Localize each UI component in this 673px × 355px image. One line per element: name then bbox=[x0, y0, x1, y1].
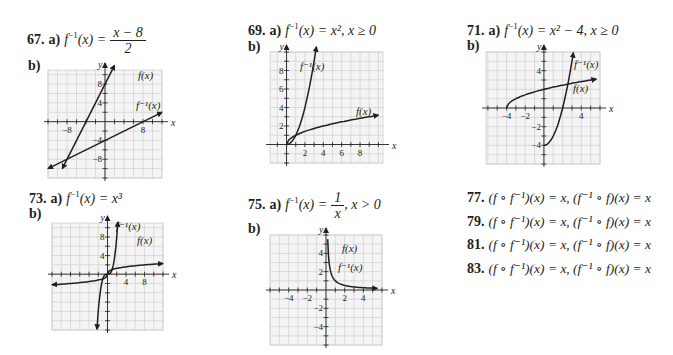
f-inverse-label: f⁻¹(x) bbox=[136, 99, 161, 112]
y-tick-label: 8 bbox=[98, 79, 103, 89]
y-axis-label: y bbox=[279, 41, 285, 52]
graph-75: −4−22442−2−4xyf(x)f⁻¹(x) bbox=[260, 222, 400, 352]
part-a-label: a) bbox=[489, 23, 501, 38]
answer-expression: f−1(x) = x³ bbox=[66, 191, 122, 206]
part-a-label: a) bbox=[49, 32, 61, 47]
part-b-label: b) bbox=[29, 206, 41, 222]
problem-number: 73. bbox=[29, 191, 47, 206]
x-tick-label: −8 bbox=[62, 125, 72, 135]
x-tick-label: 2 bbox=[303, 148, 308, 158]
problem-67-answer: 67. a) f−1(x) = x − 82 bbox=[27, 25, 146, 56]
f-inverse-label: f⁻¹(x) bbox=[574, 58, 599, 71]
y-tick-label: −2 bbox=[531, 122, 541, 132]
composition-item: 81. (f ∘ f⁻¹)(x) = x, (f⁻¹ ∘ f)(x) = x bbox=[467, 233, 651, 257]
part-a-label: a) bbox=[270, 197, 282, 212]
answer-expression: f−1(x) = x² − 4, x ≥ 0 bbox=[504, 23, 618, 38]
x-tick-label: −2 bbox=[303, 293, 313, 303]
y-tick-label: 2 bbox=[279, 121, 284, 131]
x-axis-label: x bbox=[170, 117, 176, 128]
x-tick-label: 6 bbox=[339, 148, 344, 158]
y-tick-label: −8 bbox=[92, 154, 102, 164]
answer-expression: f−1(x) = bbox=[285, 197, 327, 212]
f-inverse-label: f⁻¹(x) bbox=[300, 60, 325, 73]
x-tick-label: 4 bbox=[361, 293, 366, 303]
x-tick-label: 8 bbox=[142, 277, 147, 287]
problem-number: 75. bbox=[248, 197, 266, 212]
problem-69-answer: 69. a) f−1(x) = x², x ≥ 0 bbox=[248, 21, 376, 39]
f-label: f(x) bbox=[573, 82, 589, 95]
y-tick-label: 4 bbox=[100, 251, 105, 261]
x-axis-label: x bbox=[390, 285, 396, 296]
x-axis-label: x bbox=[608, 103, 614, 114]
problem-75-answer: 75. a) f−1(x) = 1x, x > 0 bbox=[248, 190, 381, 221]
graph-69: 24682468xyf(x)f⁻¹(x) bbox=[258, 40, 398, 170]
composition-answers: 77. (f ∘ f⁻¹)(x) = x, (f⁻¹ ∘ f)(x) = x 7… bbox=[467, 186, 651, 280]
y-tick-label: 4 bbox=[279, 103, 284, 113]
x-axis-label: x bbox=[171, 269, 177, 280]
x-tick-label: 4 bbox=[579, 111, 584, 121]
y-tick-label: −4 bbox=[531, 140, 541, 150]
y-tick-label: −4 bbox=[313, 322, 323, 332]
x-tick-label: −2 bbox=[520, 111, 530, 121]
y-axis-label: y bbox=[318, 224, 324, 235]
x-tick-label: −4 bbox=[284, 293, 294, 303]
y-tick-label: 4 bbox=[98, 98, 103, 108]
y-axis-label: y bbox=[536, 41, 542, 52]
y-tick-label: 4 bbox=[536, 66, 541, 76]
y-tick-label: 2 bbox=[319, 267, 324, 277]
f-label: f(x) bbox=[137, 234, 153, 247]
f-label: f(x) bbox=[138, 69, 154, 82]
problem-number: 71. bbox=[467, 23, 485, 38]
y-tick-label: 6 bbox=[279, 84, 284, 94]
problem-number: 67. bbox=[27, 32, 45, 47]
y-tick-label: 8 bbox=[279, 66, 284, 76]
part-a-label: a) bbox=[270, 23, 282, 38]
x-tick-label: 8 bbox=[358, 148, 363, 158]
f-inverse-label: f⁻¹(x) bbox=[116, 220, 141, 233]
composition-item: 83. (f ∘ f⁻¹)(x) = x, (f⁻¹ ∘ f)(x) = x bbox=[467, 257, 651, 281]
graph-71: −4−244−2−4xyf(x)f⁻¹(x) bbox=[476, 40, 616, 170]
graph-73: 4884xyf(x)f⁻¹(x) bbox=[42, 210, 182, 340]
part-b-label: b) bbox=[248, 221, 260, 237]
answer-fraction: x − 82 bbox=[110, 25, 146, 56]
y-tick-label: 4 bbox=[319, 248, 324, 258]
problem-73-answer: 73. a) f−1(x) = x³ bbox=[29, 189, 122, 207]
x-tick-label: 2 bbox=[342, 293, 347, 303]
part-b-label: b) bbox=[28, 58, 40, 74]
x-axis-label: x bbox=[391, 140, 397, 151]
x-tick-label: 4 bbox=[321, 148, 326, 158]
x-tick-label: 4 bbox=[124, 277, 129, 287]
answer-expression: f−1(x) = x², x ≥ 0 bbox=[285, 23, 376, 38]
problem-number: 69. bbox=[248, 23, 266, 38]
composition-item: 77. (f ∘ f⁻¹)(x) = x, (f⁻¹ ∘ f)(x) = x bbox=[467, 186, 651, 210]
part-a-label: a) bbox=[51, 191, 63, 206]
x-tick-label: −4 bbox=[502, 111, 512, 121]
problem-71-answer: 71. a) f−1(x) = x² − 4, x ≥ 0 bbox=[467, 21, 618, 39]
y-tick-label: 8 bbox=[100, 232, 105, 242]
y-axis-label: y bbox=[97, 59, 103, 70]
f-label: f(x) bbox=[356, 105, 372, 118]
composition-item: 79. (f ∘ f⁻¹)(x) = x, (f⁻¹ ∘ f)(x) = x bbox=[467, 210, 651, 234]
y-tick-label: −2 bbox=[313, 303, 323, 313]
answer-fraction: 1x bbox=[331, 190, 344, 221]
f-inverse-label: f⁻¹(x) bbox=[338, 261, 363, 274]
y-axis-label: y bbox=[100, 212, 106, 223]
f-label: f(x) bbox=[342, 242, 358, 255]
answer-expression: f−1(x) = bbox=[64, 32, 106, 47]
graph-67: −8884−4−8xyf(x)f⁻¹(x) bbox=[40, 55, 180, 185]
x-tick-label: 8 bbox=[141, 125, 146, 135]
